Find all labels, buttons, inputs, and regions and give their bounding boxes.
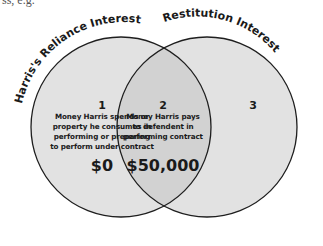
region-3-number: 3 bbox=[238, 99, 268, 112]
region-2-number: 2 bbox=[120, 99, 206, 112]
region-2: 2 Money Harris pays to defendent in perf… bbox=[120, 99, 206, 176]
region-3: 3 bbox=[238, 99, 268, 112]
venn-diagram: ss, e.g. Harris's Reliance Interest Rest… bbox=[0, 0, 323, 246]
region-2-description: Money Harris pays to defendent in perfor… bbox=[120, 112, 206, 142]
region-2-amount: $50,000 bbox=[120, 156, 206, 176]
